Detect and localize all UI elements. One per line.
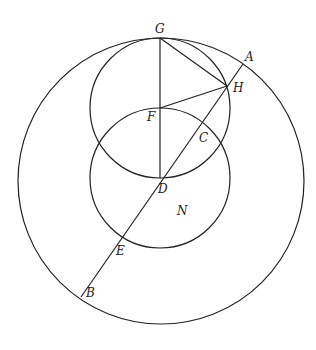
- segment-AB: [81, 64, 243, 297]
- point-label-C: C: [199, 131, 208, 145]
- point-label-E: E: [115, 244, 125, 258]
- point-label-D: D: [157, 182, 168, 196]
- point-label-B: B: [85, 286, 95, 300]
- point-label-F: F: [146, 110, 156, 124]
- point-label-N: N: [176, 204, 188, 218]
- point-label-A: A: [244, 50, 254, 64]
- geometry-diagram: GAHFCDNEB: [0, 0, 316, 350]
- point-label-H: H: [232, 81, 244, 95]
- segment-GH: [160, 38, 227, 86]
- segment-FH: [160, 86, 227, 108]
- point-label-G: G: [155, 22, 165, 36]
